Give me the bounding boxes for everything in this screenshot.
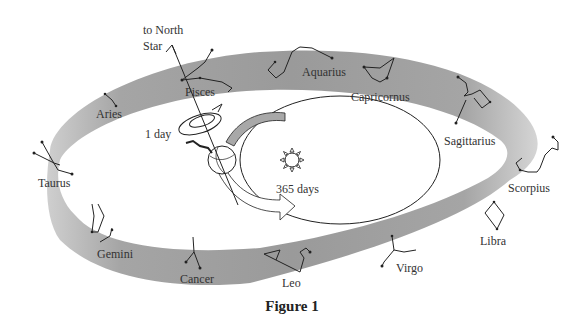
constellation-label-scorpius: Scorpius (508, 181, 550, 195)
orbit-arrow-gray (226, 112, 285, 146)
north-star-arrowhead-icon (166, 45, 176, 54)
constellation-label-virgo: Virgo (396, 261, 423, 275)
sun-icon (280, 148, 304, 172)
constellation-label-pisces: Pisces (185, 85, 215, 99)
north-star-label-line2: Star (143, 39, 162, 53)
constellation-label-aquarius: Aquarius (302, 65, 346, 79)
zodiac-diagram: to North Star 1 day 365 days Pisces Aqua… (0, 0, 584, 324)
constellation-label-gemini: Gemini (97, 247, 134, 261)
orbit-label: 365 days (276, 182, 319, 196)
earth-icon (208, 146, 236, 174)
constellation-label-capricornus: Capricornus (351, 90, 410, 104)
rotation-arrow-icon (176, 104, 223, 139)
figure-caption: Figure 1 (265, 298, 318, 314)
constellation-label-aries: Aries (96, 107, 122, 121)
constellation-label-sagittarius: Sagittarius (444, 134, 496, 148)
north-star-label-line1: to North (143, 23, 183, 37)
constellation-label-taurus: Taurus (38, 176, 71, 190)
constellation-label-leo: Leo (282, 276, 301, 290)
observer-figure-icon (186, 141, 212, 153)
constellation-label-cancer: Cancer (180, 272, 214, 286)
constellation-figure-libra (485, 201, 504, 231)
constellation-label-libra: Libra (480, 234, 507, 248)
rotation-label: 1 day (145, 127, 171, 141)
